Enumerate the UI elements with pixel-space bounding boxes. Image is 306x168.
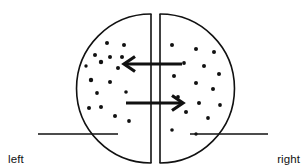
- leftward-flux-arrow: [124, 57, 182, 72]
- particle-dot: [194, 81, 198, 85]
- particle-dot: [127, 119, 131, 123]
- particle-dot: [87, 106, 91, 110]
- particles-right-group: [170, 43, 222, 136]
- particle-dot: [95, 91, 99, 95]
- particle-dot: [206, 116, 210, 120]
- rightward-flux-arrow: [126, 96, 183, 111]
- particle-dot: [218, 103, 222, 107]
- particle-dot: [89, 78, 93, 82]
- diagram-canvas: [0, 0, 306, 168]
- container-left-arc: [77, 14, 151, 163]
- flux-arrows-group: [124, 57, 183, 111]
- particle-dot: [182, 61, 186, 65]
- particle-dot: [194, 47, 198, 51]
- particle-dot: [202, 64, 206, 68]
- particle-dot: [108, 55, 112, 59]
- particle-dot: [197, 101, 201, 105]
- container-right-arc: [160, 14, 234, 163]
- particle-dot: [172, 74, 176, 78]
- particle-dot: [170, 43, 174, 47]
- divider-slit-group: [151, 14, 160, 163]
- particle-dot: [113, 114, 117, 118]
- particle-dot: [170, 128, 174, 132]
- particle-dot: [217, 72, 221, 76]
- particle-dot: [93, 53, 97, 57]
- diffusion-diagram: left side right side: [0, 0, 306, 168]
- particle-dot: [116, 66, 120, 70]
- label-left-side-line1: left: [8, 153, 30, 166]
- label-left-side: left side: [8, 127, 30, 168]
- particle-dot: [122, 43, 126, 47]
- particle-dot: [120, 55, 124, 59]
- particles-left-group: [84, 41, 131, 123]
- particle-dot: [211, 87, 215, 91]
- particle-dot: [84, 64, 87, 67]
- particle-dot: [108, 80, 112, 84]
- particle-dot: [99, 105, 103, 109]
- particle-dot: [184, 110, 188, 114]
- particle-dot: [124, 90, 128, 94]
- particle-dot: [105, 41, 109, 45]
- particle-dot: [212, 50, 216, 54]
- particle-dot: [194, 132, 197, 135]
- particle-dot: [99, 60, 103, 64]
- label-right-side-line1: right: [277, 153, 300, 166]
- container-circle-group: [77, 14, 235, 163]
- label-right-side: right side: [277, 127, 300, 168]
